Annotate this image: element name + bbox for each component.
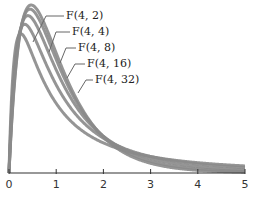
callout-leader-line — [67, 64, 85, 78]
x-tick-label: 2 — [100, 178, 107, 191]
x-tick-label: 1 — [53, 178, 60, 191]
curve-label: F(4, 2) — [66, 9, 103, 22]
curve-label: F(4, 16) — [87, 57, 131, 70]
curve-label: F(4, 4) — [72, 25, 109, 38]
callout-leader-line — [60, 48, 76, 63]
x-tick-label: 4 — [194, 178, 201, 191]
f-distribution-chart: 012345 F(4, 2)F(4, 4)F(4, 8)F(4, 16)F(4,… — [0, 0, 254, 205]
x-tick-label: 0 — [6, 178, 13, 191]
callout-leader-line — [78, 80, 93, 93]
curves-group — [9, 5, 245, 173]
curve-labels: F(4, 2)F(4, 4)F(4, 8)F(4, 16)F(4, 32) — [33, 9, 139, 93]
curve-label: F(4, 32) — [95, 73, 139, 86]
x-tick-label: 5 — [242, 178, 249, 191]
curve-4-8 — [9, 16, 245, 173]
x-tick-label: 3 — [147, 178, 154, 191]
curve-label: F(4, 8) — [78, 41, 115, 54]
